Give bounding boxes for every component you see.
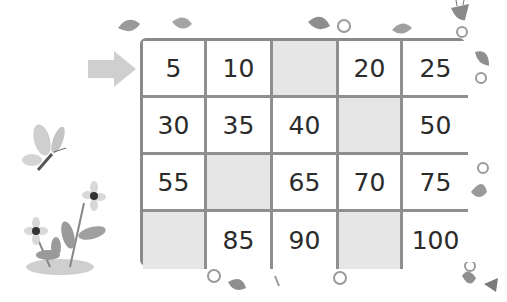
start-arrow-icon — [88, 51, 136, 87]
vine-leaves-bottom-icon — [200, 262, 507, 302]
butterfly-icon — [18, 122, 68, 180]
number-cell: 50 — [403, 98, 468, 155]
number-cell: 90 — [273, 212, 339, 269]
blank-cell[interactable] — [339, 212, 403, 269]
number-cell: 70 — [339, 155, 403, 212]
number-cell: 55 — [143, 155, 207, 212]
number-cell: 85 — [207, 212, 273, 269]
flowers-icon — [8, 175, 108, 280]
number-cell: 5 — [143, 41, 207, 98]
number-cell: 30 — [143, 98, 207, 155]
number-grid: 510202530354050556570758590100 — [140, 38, 465, 266]
blank-cell[interactable] — [143, 212, 207, 269]
cut-off-instruction-text — [0, 0, 507, 4]
number-cell: 65 — [273, 155, 339, 212]
number-cell: 25 — [403, 41, 468, 98]
blank-cell[interactable] — [207, 155, 273, 212]
vine-leaves-right-icon — [465, 40, 507, 270]
number-cell: 10 — [207, 41, 273, 98]
vine-leaves-top-icon — [112, 10, 472, 46]
blank-cell[interactable] — [273, 41, 339, 98]
number-cell: 40 — [273, 98, 339, 155]
number-cell: 35 — [207, 98, 273, 155]
number-cell: 100 — [403, 212, 468, 269]
number-cell: 20 — [339, 41, 403, 98]
number-cell: 75 — [403, 155, 468, 212]
bell-flower-icon — [447, 0, 477, 26]
blank-cell[interactable] — [339, 98, 403, 155]
